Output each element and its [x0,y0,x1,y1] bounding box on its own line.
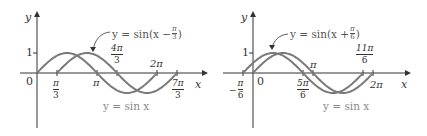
x-tick-4pi-3: 4π3 [111,44,123,65]
right-chart: y x 0 1 − π6 5π6 π 11π6 2π y = sin(x + π… [213,0,426,136]
base-curve-label: y = sin x [323,100,369,112]
origin-label: 0 [26,76,33,87]
y-tick-1: 1 [26,47,33,58]
x-axis-label: x [401,79,407,90]
y-axis-label: y [241,12,247,23]
y-axis-label: y [25,12,31,23]
x-tick-11pi-6: 11π6 [356,44,373,65]
x-axis-label: x [195,79,201,90]
x-tick-2pi: 2π [370,80,383,90]
y-tick-1: 1 [242,47,249,58]
x-tick-pi: π [93,78,100,88]
x-tick-5pi-6: 5π6 [297,79,309,100]
x-tick-minus-pi-6: − π6 [229,79,243,100]
origin-label: 0 [257,76,264,87]
x-tick-pi: π [310,60,317,70]
base-curve-label: y = sin x [103,100,149,112]
left-chart: y x 0 1 π3 π 4π3 2π 7π3 y = sin(x − π3 )… [0,0,213,136]
left-plot [0,0,213,136]
shifted-curve-label: y = sin(x − π3 ) [112,26,182,41]
x-tick-pi-3: π3 [53,79,59,100]
shifted-curve-label: y = sin(x + π6 ) [290,26,360,41]
x-tick-7pi-3: 7π3 [172,79,184,100]
x-tick-2pi: 2π [150,59,163,69]
